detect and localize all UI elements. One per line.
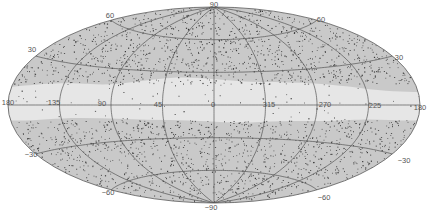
latitude-label: −60 (102, 188, 115, 197)
longitude-label: 90 (98, 99, 106, 108)
latitude-label: −30 (398, 156, 411, 165)
latitude-label: −60 (318, 193, 331, 202)
latitude-label: 60 (317, 15, 325, 24)
longitude-label: 135 (48, 98, 61, 107)
latitude-label: −30 (25, 150, 38, 159)
longitude-label: 45 (154, 100, 162, 109)
latitude-label: 90 (210, 0, 218, 9)
longitude-label: 180 (2, 98, 15, 107)
latitude-label: −90 (205, 203, 218, 212)
latitude-label: 30 (395, 53, 403, 62)
longitude-label: 180 (414, 103, 427, 112)
latitude-label: 60 (106, 11, 114, 20)
longitude-label: 315 (263, 100, 276, 109)
longitude-label: 225 (369, 101, 382, 110)
longitude-label: 0 (211, 100, 215, 109)
longitude-label: 270 (319, 100, 332, 109)
latitude-label: 30 (28, 45, 36, 54)
